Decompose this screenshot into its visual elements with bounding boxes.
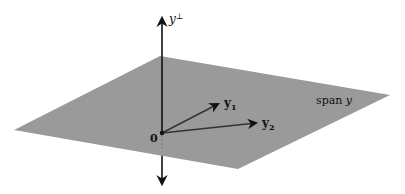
origin-point xyxy=(160,131,164,135)
origin-label: 0 xyxy=(150,132,158,145)
diagram-canvas: y⊥ 0 y1 y2 span 𝑦 xyxy=(0,0,405,194)
span-plane-label: span 𝑦 xyxy=(316,94,353,107)
axis-perp-label: y⊥ xyxy=(168,12,183,26)
